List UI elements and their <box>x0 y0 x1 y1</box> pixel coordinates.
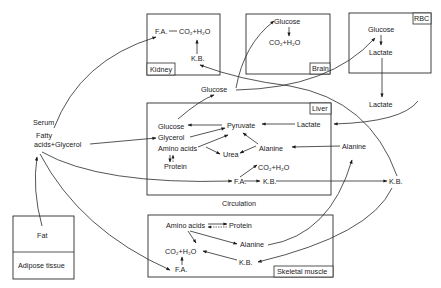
brain-label: Brain <box>312 64 329 73</box>
serum-fatty: Fatty <box>36 131 52 140</box>
circulation-kb: K.B. <box>389 177 403 186</box>
kidney-co2: CO₂+H₂O <box>179 27 211 36</box>
kidney-label: Kidney <box>150 65 172 74</box>
muscle-label: Skeletal muscle <box>277 267 327 276</box>
brain-box: Brain Glucose CO₂+H₂O <box>246 14 330 74</box>
muscle-kb: K.B. <box>239 258 253 267</box>
metabolism-diagram: Kidney F.A. CO₂+H₂O K.B. Brain Glucose C… <box>0 0 441 288</box>
adipose-label: Adipose tissue <box>18 261 65 270</box>
liver-kb: K.B. <box>263 177 277 186</box>
rbc-glucose: Glucose <box>368 25 394 34</box>
liver-lactate: Lactate <box>297 120 321 129</box>
rbc-lactate: Lactate <box>369 48 393 57</box>
kidney-fa: F.A. <box>155 27 167 36</box>
liver-co2: CO₂+H₂O <box>258 163 290 172</box>
adipose-box: Fat Adipose tissue <box>13 216 74 279</box>
circulation-glucose: Glucose <box>201 85 227 94</box>
serum-acids-glycerol: acids+Glycerol <box>34 140 82 149</box>
liver-alanine: Alanine <box>259 144 283 153</box>
adipose-fat: Fat <box>37 231 47 240</box>
circulation-alanine: Alanine <box>342 142 366 151</box>
liver-label: Liver <box>312 104 328 113</box>
circulation-label: Circulation <box>222 199 256 208</box>
liver-glycerol: Glycerol <box>158 133 185 142</box>
muscle-box: Skeletal muscle Amino acids Protein Alan… <box>148 215 333 277</box>
kidney-kb: K.B. <box>191 54 205 63</box>
rbc-box: RBC Glucose Lactate <box>349 13 431 73</box>
liver-fa: F.A. <box>234 177 246 186</box>
liver-urea: Urea <box>223 150 239 159</box>
rbc-label: RBC <box>414 14 429 23</box>
brain-co2: CO₂+H₂O <box>269 38 301 47</box>
liver-protein: Protein <box>164 162 187 171</box>
serum-label: Serum <box>33 118 54 127</box>
muscle-protein: Protein <box>229 221 252 230</box>
brain-glucose: Glucose <box>274 17 300 26</box>
circulation-lactate: Lactate <box>369 100 393 109</box>
liver-glucose: Glucose <box>158 122 184 131</box>
muscle-amino-acids: Amino acids <box>166 221 206 230</box>
muscle-fa: F.A. <box>175 265 187 274</box>
muscle-co2: CO₂+H₂O <box>165 247 197 256</box>
liver-amino-acids: Amino acids <box>158 144 198 153</box>
kidney-box: Kidney F.A. CO₂+H₂O K.B. <box>147 14 220 75</box>
muscle-alanine: Alanine <box>240 240 264 249</box>
liver-pyruvate: Pyruvate <box>227 121 255 130</box>
